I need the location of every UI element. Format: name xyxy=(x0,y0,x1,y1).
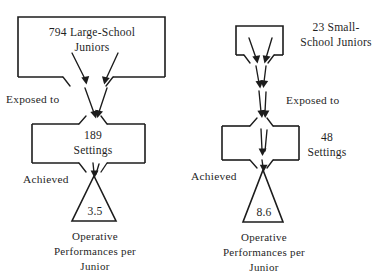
small-school-stage2-label: Achieved xyxy=(191,170,237,182)
panel-large-school: 794 Large-School Juniors Exposed to 189 … xyxy=(6,17,165,272)
figure-canvas: 794 Large-School Juniors Exposed to 189 … xyxy=(0,0,387,277)
small-school-funnel-arrows xyxy=(249,38,272,118)
small-school-middle-label-line1: 48 xyxy=(321,131,333,144)
large-school-stage2-label: Achieved xyxy=(23,173,69,185)
small-school-caption-line1: Operative xyxy=(241,231,287,243)
large-school-middle-label-line1: 189 xyxy=(84,129,102,142)
small-school-stage1-label: Exposed to xyxy=(286,94,339,106)
large-school-source-label-line2: Juniors xyxy=(75,41,110,54)
large-school-source-label-line1: 794 Large-School xyxy=(49,26,135,39)
large-school-result-value: 3.5 xyxy=(87,205,102,218)
small-school-source-label-line2: School Juniors xyxy=(300,36,372,49)
large-school-caption-line3: Junior xyxy=(80,260,109,272)
small-school-result-value: 8.6 xyxy=(256,206,271,219)
large-school-funnel-arrows xyxy=(72,53,118,119)
small-school-middle-label-line2: Settings xyxy=(308,146,347,159)
small-school-interbox-arrows xyxy=(259,129,267,156)
small-school-source-box xyxy=(236,26,283,55)
panel-small-school: 23 Small- School Juniors Exposed to 48 S… xyxy=(191,21,372,273)
large-school-caption-line1: Operative xyxy=(72,230,118,242)
funnel-figure: 794 Large-School Juniors Exposed to 189 … xyxy=(0,0,387,277)
large-school-achieved-arrow xyxy=(91,163,99,178)
large-school-caption-line2: Performances per xyxy=(54,245,136,257)
small-school-caption-line3: Junior xyxy=(249,261,278,273)
small-school-caption-line2: Performances per xyxy=(223,246,305,258)
large-school-stage1-label: Exposed to xyxy=(6,93,59,105)
small-school-source-label-line1: 23 Small- xyxy=(312,21,359,34)
large-school-middle-label-line2: Settings xyxy=(74,144,113,157)
